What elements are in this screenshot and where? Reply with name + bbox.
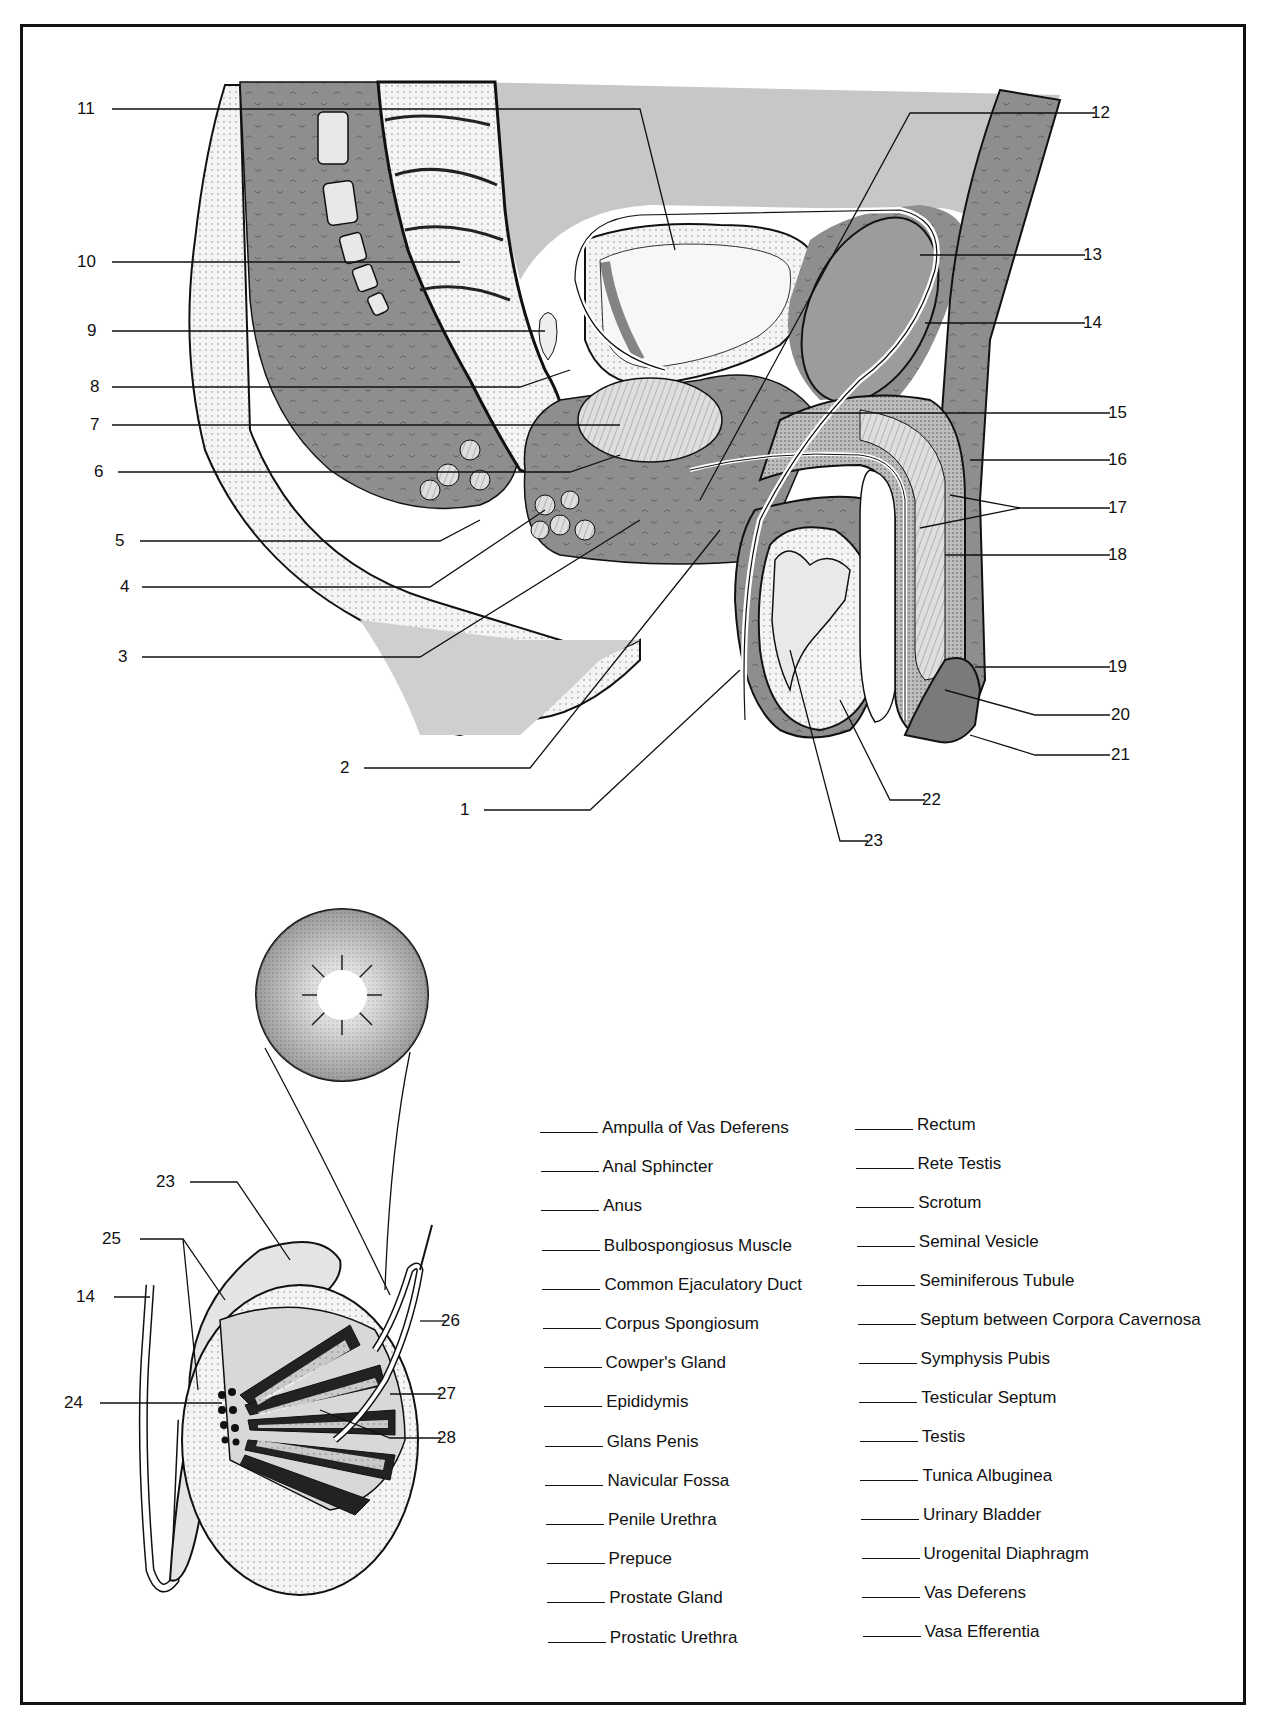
word-bank-item: Urinary Bladder [861,1505,1041,1525]
callout-number: 18 [1108,546,1127,563]
answer-blank[interactable] [860,1466,918,1481]
word-bank-item: Common Ejaculatory Duct [542,1275,801,1295]
callout-number: 25 [102,1230,121,1247]
callout-number: 20 [1111,706,1130,723]
callout-number: 6 [94,463,103,480]
callout-number: 3 [118,648,127,665]
word-bank-label: Common Ejaculatory Duct [604,1275,801,1294]
word-bank-item: Prepuce [547,1549,672,1569]
answer-blank[interactable] [547,1549,605,1564]
callout-number: 21 [1111,746,1130,763]
callout-number: 27 [437,1385,456,1402]
callout-number: 10 [77,253,96,270]
answer-blank[interactable] [857,1271,915,1286]
answer-blank[interactable] [862,1583,920,1598]
answer-blank[interactable] [542,1236,600,1251]
callout-number: 1 [460,801,469,818]
word-bank-label: Scrotum [918,1193,981,1212]
callout-number: 11 [77,100,95,117]
word-bank-item: Penile Urethra [546,1510,717,1530]
answer-blank[interactable] [858,1310,916,1325]
answer-blank[interactable] [548,1628,606,1643]
word-bank-label: Urinary Bladder [923,1505,1041,1524]
answer-blank[interactable] [541,1196,599,1211]
callout-number: 17 [1108,499,1127,516]
word-bank-item: Prostate Gland [547,1588,722,1608]
word-bank-label: Penile Urethra [608,1510,717,1529]
answer-blank[interactable] [859,1388,917,1403]
answer-blank[interactable] [542,1275,600,1290]
word-bank-item: Rectum [855,1115,976,1135]
answer-blank[interactable] [860,1427,918,1442]
answer-blank[interactable] [546,1510,604,1525]
word-bank-item: Navicular Fossa [545,1471,729,1491]
answer-blank[interactable] [545,1432,603,1447]
word-bank-label: Vas Deferens [924,1583,1026,1602]
callout-number: 16 [1108,451,1127,468]
word-bank-item: Testis [860,1427,965,1447]
answer-blank[interactable] [544,1353,602,1368]
word-bank-label: Seminal Vesicle [919,1232,1039,1251]
answer-blank[interactable] [863,1622,921,1637]
callout-number: 14 [76,1288,95,1305]
word-bank-label: Testis [922,1427,965,1446]
word-bank-label: Rete Testis [918,1154,1002,1173]
answer-blank[interactable] [544,1392,602,1407]
answer-blank[interactable] [856,1154,914,1169]
callout-number: 15 [1108,404,1127,421]
callout-number: 22 [922,791,941,808]
callout-number: 8 [90,378,99,395]
callout-number: 14 [1083,314,1102,331]
word-bank-label: Urogenital Diaphragm [924,1544,1089,1563]
answer-blank[interactable] [541,1157,599,1172]
answer-blank[interactable] [545,1471,603,1486]
word-bank-item: Anal Sphincter [541,1157,714,1177]
word-bank-label: Prostatic Urethra [610,1628,738,1647]
callout-number: 4 [120,578,129,595]
callout-number: 5 [115,532,124,549]
callout-number: 24 [64,1394,83,1411]
word-bank-label: Anal Sphincter [603,1157,714,1176]
word-bank-item: Seminal Vesicle [857,1232,1039,1252]
word-bank-label: Rectum [917,1115,976,1134]
answer-blank[interactable] [543,1314,601,1329]
answer-blank[interactable] [859,1349,917,1364]
word-bank-label: Cowper's Gland [606,1353,726,1372]
word-bank-label: Septum between Corpora Cavernosa [920,1310,1201,1329]
callout-number: 23 [864,832,883,849]
callout-number: 23 [156,1173,175,1190]
word-bank-item: Prostatic Urethra [548,1628,738,1648]
word-bank-label: Vasa Efferentia [925,1622,1040,1641]
word-bank-item: Symphysis Pubis [859,1349,1050,1369]
word-bank-label: Tunica Albuginea [922,1466,1052,1485]
answer-blank[interactable] [540,1118,598,1133]
word-bank-item: Ampulla of Vas Deferens [540,1118,789,1138]
word-bank-label: Prepuce [609,1549,672,1568]
word-bank-item: Anus [541,1196,642,1216]
word-bank-item: Scrotum [856,1193,981,1213]
word-bank-label: Testicular Septum [921,1388,1056,1407]
word-bank-item: Seminiferous Tubule [857,1271,1074,1291]
answer-blank[interactable] [862,1544,920,1559]
word-bank-item: Urogenital Diaphragm [862,1544,1089,1564]
answer-blank[interactable] [857,1232,915,1247]
tubule-cross-section [256,909,428,1081]
word-bank-label: Corpus Spongiosum [605,1314,759,1333]
word-bank-label: Navicular Fossa [607,1471,729,1490]
callout-number: 26 [441,1312,460,1329]
word-bank-item: Vas Deferens [862,1583,1026,1603]
word-bank-item: Testicular Septum [859,1388,1056,1408]
callout-number: 28 [437,1429,456,1446]
answer-blank[interactable] [856,1193,914,1208]
word-bank-item: Corpus Spongiosum [543,1314,759,1334]
callout-number: 2 [340,759,349,776]
word-bank-item: Bulbospongiosus Muscle [542,1236,792,1256]
answer-blank[interactable] [861,1505,919,1520]
word-bank-label: Bulbospongiosus Muscle [604,1236,792,1255]
answer-blank[interactable] [547,1588,605,1603]
word-bank-label: Prostate Gland [609,1588,722,1607]
callout-number: 19 [1108,658,1127,675]
answer-blank[interactable] [855,1115,913,1130]
word-bank-label: Epididymis [606,1392,688,1411]
word-bank-label: Glans Penis [607,1432,699,1451]
